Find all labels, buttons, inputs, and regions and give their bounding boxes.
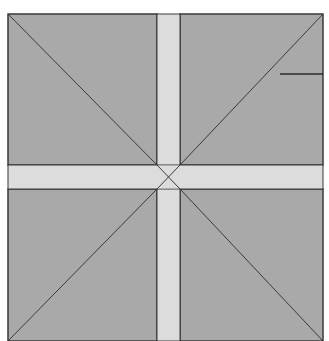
quilt-diagram — [0, 0, 329, 341]
